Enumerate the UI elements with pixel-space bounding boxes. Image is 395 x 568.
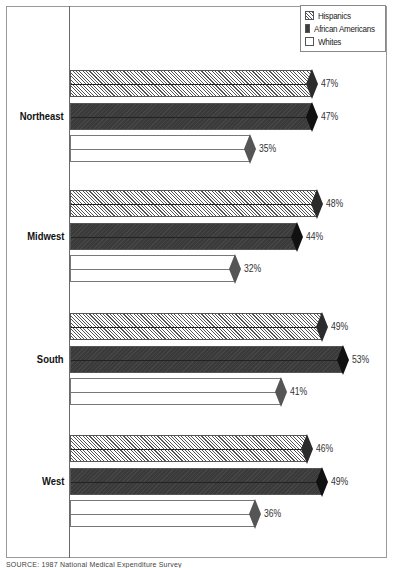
legend-item-whites: Whites	[305, 35, 385, 48]
value-label: 53%	[352, 353, 369, 365]
legend-label: Hispanics	[318, 10, 351, 21]
diamond-marker-icon	[249, 499, 261, 529]
bar-center-line	[71, 269, 234, 270]
bar-african-americans	[70, 223, 297, 250]
value-label: 35%	[259, 142, 276, 154]
legend-item-african-americans: African Americans	[305, 22, 385, 35]
diamond-marker-icon	[306, 69, 318, 99]
legend: Hispanics African Americans Whites	[300, 5, 386, 52]
diamond-marker-icon	[244, 134, 256, 164]
region-label: West	[42, 475, 64, 487]
region-label: Northeast	[20, 110, 64, 122]
diamond-marker-icon	[337, 345, 349, 375]
source-note: SOURCE: 1987 National Medical Expenditur…	[6, 561, 182, 568]
diamond-marker-icon	[275, 377, 287, 407]
bar-center-line	[71, 360, 342, 361]
bar-center-line	[71, 482, 321, 483]
diamond-marker-icon	[301, 434, 313, 464]
value-label: 48%	[326, 197, 343, 209]
region-label: Midwest	[27, 230, 64, 242]
bar-center-line	[71, 514, 254, 515]
bar-african-americans	[70, 346, 343, 373]
bar-whites	[70, 135, 250, 162]
bar-center-line	[71, 392, 280, 393]
value-label: 49%	[331, 475, 348, 487]
bar-hispanics	[70, 70, 312, 97]
bar-african-americans	[70, 468, 322, 495]
bar-center-line	[71, 327, 321, 328]
value-label: 41%	[290, 385, 307, 397]
diamond-marker-icon	[316, 467, 328, 497]
value-label: 49%	[331, 320, 348, 332]
bar-center-line	[71, 117, 311, 118]
bar-whites	[70, 378, 281, 405]
legend-label: Whites	[318, 36, 341, 47]
diamond-marker-icon	[229, 254, 241, 284]
bar-hispanics	[70, 190, 317, 217]
value-label: 47%	[321, 77, 338, 89]
bar-whites	[70, 255, 235, 282]
bar-hispanics	[70, 435, 307, 462]
bar-center-line	[71, 149, 249, 150]
bar-center-line	[71, 204, 316, 205]
bar-whites	[70, 500, 255, 527]
white-swatch-icon	[305, 37, 314, 46]
diamond-marker-icon	[306, 102, 318, 132]
bar-center-line	[71, 449, 306, 450]
hatch-swatch-icon	[305, 11, 314, 20]
value-label: 46%	[316, 442, 333, 454]
bar-african-americans	[70, 103, 312, 130]
value-label: 44%	[306, 230, 323, 242]
value-label: 47%	[321, 110, 338, 122]
legend-label: African Americans	[314, 23, 375, 34]
bar-hispanics	[70, 313, 322, 340]
legend-item-hispanics: Hispanics	[305, 9, 385, 22]
diamond-marker-icon	[316, 312, 328, 342]
diamond-marker-icon	[311, 189, 323, 219]
value-label: 32%	[244, 262, 261, 274]
bar-center-line	[71, 84, 311, 85]
diamond-marker-icon	[291, 222, 303, 252]
value-label: 36%	[264, 507, 281, 519]
region-label: South	[37, 353, 64, 365]
dark-swatch-icon	[305, 24, 310, 33]
bar-center-line	[71, 237, 296, 238]
